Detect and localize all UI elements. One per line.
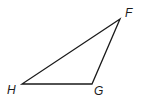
vertex-label-g: G [94,84,103,95]
vertex-label-h: H [7,83,16,95]
triangle-fgh [22,19,120,84]
triangle-diagram: F H G [0,0,143,95]
vertex-label-f: F [125,6,133,20]
